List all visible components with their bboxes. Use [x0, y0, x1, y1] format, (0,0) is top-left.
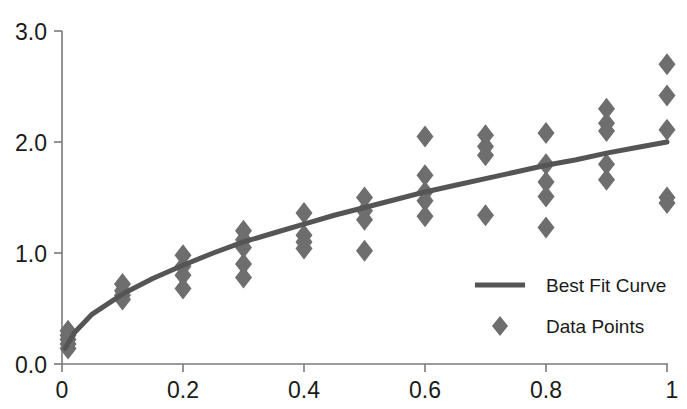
y-tick-label-1: 1.0 [15, 241, 47, 267]
legend-label-data-points: Data Points [546, 316, 644, 337]
y-tick-label-2: 2.0 [15, 130, 47, 156]
y-tick-label-0: 0.0 [15, 352, 47, 378]
plot-background [0, 0, 687, 409]
x-tick-label-0: 0 [56, 377, 69, 403]
x-tick-label-0-2: 0.2 [167, 377, 199, 403]
chart-container: 3.0 2.0 1.0 0.0 0 0.2 0.4 0.6 0.8 1 [0, 0, 687, 409]
x-tick-label-0-6: 0.6 [409, 377, 441, 403]
legend-label-best-fit: Best Fit Curve [546, 275, 666, 296]
y-tick-label-3: 3.0 [15, 19, 47, 45]
scatter-plot-with-best-fit-curve: 3.0 2.0 1.0 0.0 0 0.2 0.4 0.6 0.8 1 [0, 0, 687, 409]
x-tick-label-1: 1 [666, 377, 679, 403]
x-tick-label-0-4: 0.4 [288, 377, 320, 403]
x-tick-label-0-8: 0.8 [530, 377, 562, 403]
